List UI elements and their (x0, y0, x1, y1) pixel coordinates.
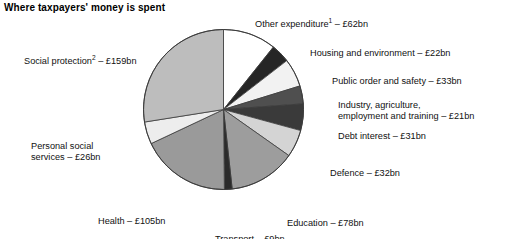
pie-label-pss-line1: Personal social (31, 141, 93, 151)
chart-figure: Where taxpayers' money is spent Other ex… (0, 0, 505, 239)
pie-label-industry-line2: employment and training – £21bn (338, 111, 474, 121)
pie-label-other-expenditure-text: Other expenditure (255, 19, 329, 29)
pie-slices (143, 29, 303, 189)
pie-label-social-protection-amount: – £159bn (98, 56, 136, 66)
pie-label-public-order-and-safety: Public order and safety – £33bn (332, 76, 462, 87)
pie-label-other-expenditure: Other expenditure1 – £62bn (255, 19, 368, 30)
pie-slice-social-protection (143, 29, 223, 122)
pie-label-personal-social-services: Personal social services – £26bn (31, 141, 141, 163)
pie-label-industry-line1: Industry, agriculture, (338, 100, 421, 110)
pie-label-housing-and-environment: Housing and environment – £22bn (310, 48, 450, 59)
footnote-marker-1: 1 (329, 17, 333, 24)
chart-title: Where taxpayers' money is spent (4, 2, 165, 13)
pie-chart (143, 29, 304, 190)
pie-label-pss-line2: services – £26bn (31, 152, 100, 162)
pie-label-debt-interest: Debt interest – £31bn (338, 131, 426, 142)
pie-label-health: Health – £105bn (98, 216, 165, 227)
footnote-marker-2: 2 (92, 54, 96, 61)
pie-label-transport: Transport – £9bn (215, 234, 285, 239)
pie-label-social-protection-text: Social protection (24, 56, 92, 66)
pie-label-social-protection: Social protection2 – £159bn (24, 56, 137, 67)
pie-svg (143, 29, 304, 190)
pie-label-defence: Defence – £32bn (330, 168, 400, 179)
pie-label-other-expenditure-amount: – £62bn (335, 19, 368, 29)
pie-label-education: Education – £78bn (287, 218, 364, 229)
pie-label-industry-agriculture: Industry, agriculture, employment and tr… (338, 100, 503, 122)
